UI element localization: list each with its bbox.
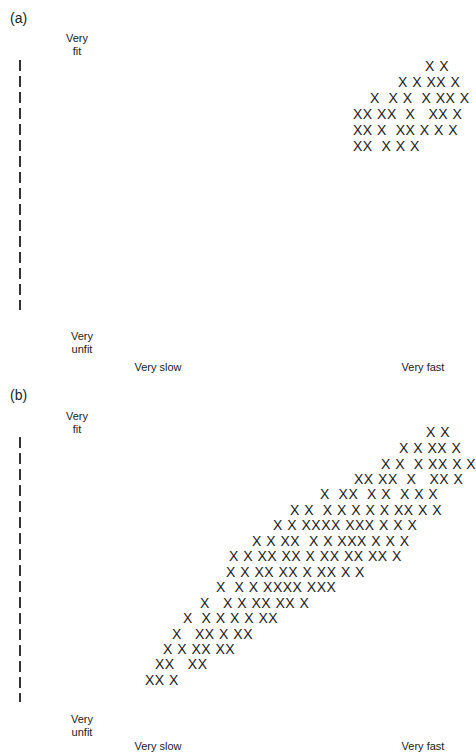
label-line: fit xyxy=(52,423,102,436)
panel-b-label: (b) xyxy=(10,387,27,403)
data-row: X X xyxy=(425,58,449,74)
panel-b: (b) Very fit Very unfit Very slow Very f… xyxy=(0,375,472,755)
data-row: XX XX X XX X xyxy=(354,471,463,487)
panel-a: (a) Very fit Very unfit Very slow Very f… xyxy=(0,0,472,375)
data-row: X X X XX X X xyxy=(381,456,476,472)
panel-b-y-top-label: Very fit xyxy=(52,410,102,436)
data-row: XX X X X xyxy=(353,138,420,154)
data-row: X X XX XX X XX XX XX X xyxy=(229,548,402,564)
data-row: X X X XXXX XXX xyxy=(216,579,336,595)
panel-a-label: (a) xyxy=(10,10,27,26)
data-row: X X XX XX X XX X X xyxy=(226,564,365,580)
label-line: Very xyxy=(52,32,102,45)
panel-a-y-axis xyxy=(19,60,21,310)
data-row: X X XX X X XXX X X X xyxy=(252,533,410,549)
panel-b-y-axis xyxy=(19,437,21,702)
data-row: X X xyxy=(426,424,450,440)
panel-a-x-right-label: Very fast xyxy=(388,361,458,374)
data-row: X XX X XX xyxy=(172,626,253,642)
panel-b-x-right-label: Very fast xyxy=(388,740,458,753)
label-line: Very xyxy=(52,410,102,423)
data-row: X X X X X XX xyxy=(183,610,278,626)
panel-b-x-left-label: Very slow xyxy=(118,740,198,753)
data-row: X X X X X X X XX X X xyxy=(290,502,442,518)
data-row: XX X xyxy=(145,672,179,688)
data-row: X X XX X xyxy=(399,440,461,456)
label-line: fit xyxy=(52,45,102,58)
label-line: unfit xyxy=(57,343,107,356)
data-row: X X XX XX xyxy=(163,641,235,657)
data-row: X X X XX XX X xyxy=(200,595,309,611)
data-row: X X X X XX X xyxy=(370,90,470,106)
data-row: XX X XX X X X xyxy=(353,122,458,138)
panel-a-x-left-label: Very slow xyxy=(118,361,198,374)
label-line: unfit xyxy=(57,726,107,739)
label-line: Very xyxy=(57,330,107,343)
label-line: Very xyxy=(57,713,107,726)
data-row: X XX X X X X X xyxy=(320,486,438,502)
data-row: XX XX X XX X xyxy=(353,106,462,122)
panel-a-y-top-label: Very fit xyxy=(52,32,102,58)
data-row: X X XX X xyxy=(398,74,460,90)
panel-a-y-bottom-label: Very unfit xyxy=(57,330,107,356)
data-row: XX XX xyxy=(155,656,208,672)
panel-b-y-bottom-label: Very unfit xyxy=(57,713,107,739)
data-row: X X XXXX XXX X X X xyxy=(273,517,417,533)
